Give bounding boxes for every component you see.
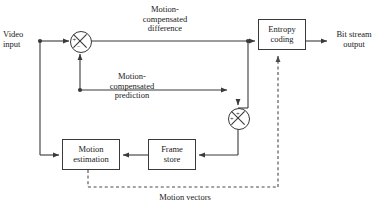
- label-bit-stream-output: Bit stream output: [330, 30, 378, 49]
- subtractor-minus-sign: −: [77, 44, 81, 51]
- block-motion-estimation[interactable]: Motion estimation: [62, 139, 120, 170]
- adder-plus-sign-top: +: [236, 111, 240, 118]
- block-entropy-coding[interactable]: Entropy coding: [258, 19, 306, 50]
- block-motion-estimation-label: Motion estimation: [73, 145, 108, 164]
- label-mc-prediction: Motion- compensated prediction: [86, 72, 178, 101]
- block-frame-store-label: Frame store: [161, 145, 183, 164]
- label-motion-vectors: Motion vectors: [140, 193, 230, 203]
- junction-dot-prediction: [78, 88, 82, 92]
- label-video-input: Video input: [3, 30, 39, 49]
- block-frame-store[interactable]: Frame store: [148, 139, 196, 170]
- adder-plus-sign-left: +: [230, 116, 234, 123]
- block-entropy-coding-label: Entropy coding: [268, 25, 295, 44]
- label-mc-difference: Motion- compensated difference: [119, 5, 211, 34]
- diagram-canvas: Entropy coding Motion estimation Frame s…: [0, 0, 378, 212]
- subtractor-plus-sign: +: [73, 37, 77, 44]
